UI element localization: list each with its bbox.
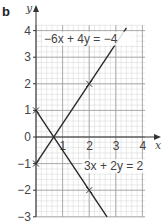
- y-tick-label: 3: [24, 50, 31, 64]
- y-tick-label: −3: [17, 210, 31, 223]
- y-tick-label: −1: [17, 157, 31, 171]
- graph: yx123443210−1−2−3−6x + 4y = −43x + 2y = …: [0, 0, 166, 223]
- y-axis-label: y: [25, 2, 33, 15]
- y-tick-label: −2: [17, 183, 31, 197]
- y-axis-arrow-icon: [33, 5, 39, 12]
- y-tick-label: 4: [24, 24, 31, 38]
- x-tick-label: 3: [113, 139, 120, 153]
- x-tick-label: 4: [139, 139, 146, 153]
- equation-label: 3x + 2y = 2: [84, 159, 144, 173]
- y-tick-label: 2: [24, 77, 31, 91]
- x-axis-label: x: [155, 139, 162, 152]
- y-tick-label: 0: [24, 130, 31, 144]
- y-tick-label: 1: [24, 103, 31, 117]
- x-tick-label: 2: [86, 139, 93, 153]
- equation-label: −6x + 4y = −4: [44, 32, 118, 46]
